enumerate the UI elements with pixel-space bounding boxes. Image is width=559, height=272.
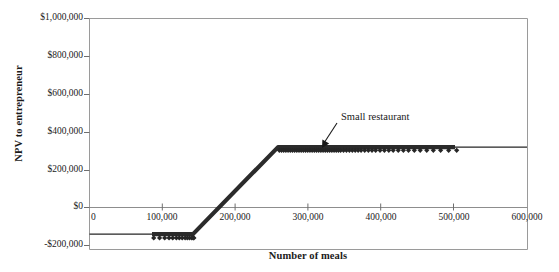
x-tick-100000: 100,000 (147, 213, 178, 223)
y-axis-title: NPV to entrepreneur (13, 34, 24, 194)
annotation-arrow-icon (322, 123, 337, 148)
npv-chart: $1,000,000 $800,000 $600,000 $400,000 $2… (0, 0, 559, 272)
y-tick-marks (84, 19, 90, 246)
x-tick-400000: 400,000 (366, 213, 397, 223)
plot-area (0, 0, 559, 272)
x-tick-origin: 0 (91, 213, 96, 223)
annotation-small-restaurant: Small restaurant (341, 112, 410, 123)
x-tick-200000: 200,000 (220, 213, 251, 223)
x-tick-600000: 600,000 (512, 213, 543, 223)
x-tick-500000: 500,000 (439, 213, 470, 223)
x-tick-300000: 300,000 (293, 213, 324, 223)
x-axis-title: Number of meals (89, 250, 527, 261)
